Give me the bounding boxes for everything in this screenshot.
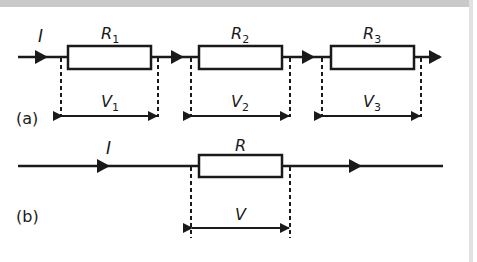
resistor-label-r2: R2 — [231, 24, 249, 46]
circuit-diagram: I R1 R2 R3 V1 V2 V3 (a) I R V (b) — [0, 0, 477, 262]
resistor-r1 — [68, 46, 151, 69]
panel-a-label: (a) — [16, 109, 38, 128]
voltage-label-v1: V1 — [101, 92, 119, 114]
current-arrow-icon — [429, 50, 442, 64]
panel-b: I R V (b) — [16, 136, 443, 238]
panel-b-label: (b) — [16, 207, 39, 226]
current-arrow-icon — [35, 50, 48, 64]
resistor-label-r1: R1 — [101, 24, 119, 46]
current-arrow-icon — [349, 159, 362, 173]
resistor-r — [199, 155, 282, 177]
current-arrow-icon — [97, 159, 110, 173]
resistor-label-r3: R3 — [363, 24, 381, 46]
current-arrow-icon — [171, 50, 184, 64]
resistor-r3 — [331, 46, 414, 69]
panel-a: I R1 R2 R3 V1 V2 V3 (a) — [16, 24, 442, 128]
current-label-a: I — [38, 26, 43, 46]
resistor-r2 — [199, 46, 282, 69]
voltage-label-v2: V2 — [231, 92, 249, 114]
voltage-label-v: V — [235, 205, 247, 224]
resistor-label-r: R — [235, 136, 246, 155]
current-arrow-icon — [302, 50, 315, 64]
current-label-b: I — [106, 138, 111, 158]
voltage-label-v3: V3 — [363, 92, 381, 114]
